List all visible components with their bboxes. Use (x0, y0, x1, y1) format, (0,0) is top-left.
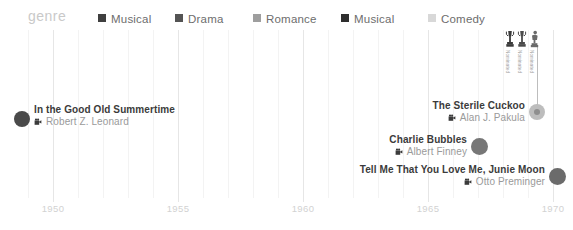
event-label-block: The Sterile Cuckoo Alan J. Pakula (310, 100, 525, 124)
event-title: In the Good Old Summertime (34, 104, 175, 116)
event-director: Otto Preminger (330, 176, 545, 188)
event-title: Charlie Bubbles (260, 134, 467, 146)
axis-tick-label: 1970 (542, 203, 565, 214)
event-title: The Sterile Cuckoo (310, 100, 525, 112)
gridline-minor (278, 30, 279, 198)
event-marker-dot-center (534, 109, 540, 115)
gridline-minor (228, 30, 229, 198)
event-director: Alan J. Pakula (310, 112, 525, 124)
event-director-name: Albert Finney (407, 146, 467, 157)
gridline-major (303, 30, 304, 202)
event-marker-dot[interactable] (471, 138, 488, 155)
event-director-name: Robert Z. Leonard (46, 116, 129, 127)
award-trophy-icon[interactable] (517, 30, 527, 48)
award-stem (537, 46, 538, 112)
gridline-minor (203, 30, 204, 198)
event-director-name: Otto Preminger (476, 176, 545, 187)
award-trophy-icon[interactable] (529, 30, 540, 48)
gridline-minor (253, 30, 254, 198)
award-label: Nominated (529, 50, 534, 73)
event-title: Tell Me That You Love Me, Junie Moon (330, 164, 545, 176)
axis-tick-label: 1955 (167, 203, 190, 214)
axis-tick-label: 1960 (292, 203, 315, 214)
camera-icon (395, 148, 403, 156)
axis-tick-label: 1965 (417, 203, 440, 214)
camera-icon (34, 118, 42, 126)
event-director: Robert Z. Leonard (34, 116, 175, 128)
event-label-block: In the Good Old Summertime Robert Z. Leo… (34, 104, 175, 128)
event-label-block: Charlie Bubbles Albert Finney (260, 134, 467, 158)
event-label-block: Tell Me That You Love Me, Junie Moon Ott… (330, 164, 545, 188)
event-marker-dot[interactable] (14, 111, 30, 127)
award-label: Nominated (517, 50, 522, 73)
gridline-major (178, 30, 179, 202)
camera-icon (464, 178, 472, 186)
axis-tick-label: 1950 (42, 203, 65, 214)
event-director-name: Alan J. Pakula (460, 112, 525, 123)
event-director: Albert Finney (260, 146, 467, 158)
timeline-chart: genre Musical Drama Romance Musical Come… (0, 0, 573, 230)
camera-icon (448, 114, 456, 122)
event-marker-dot[interactable] (549, 168, 566, 185)
award-trophy-icon[interactable] (505, 30, 515, 48)
award-label: Nominated (505, 50, 510, 73)
